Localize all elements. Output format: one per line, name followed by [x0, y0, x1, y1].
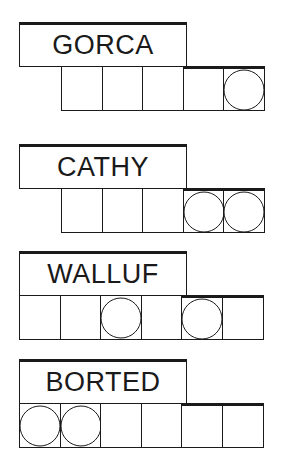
answer-cell[interactable] [60, 295, 102, 340]
answer-cell[interactable] [142, 66, 184, 111]
answer-cells-row [19, 403, 264, 448]
answer-cell[interactable] [142, 188, 184, 233]
circled-letter-icon [60, 405, 101, 446]
circled-letter-icon [183, 191, 224, 232]
answer-cell[interactable] [102, 66, 144, 111]
scrambled-word-label: GORCA [19, 22, 187, 67]
answer-cell[interactable] [61, 66, 103, 111]
answer-cell[interactable] [223, 188, 265, 233]
scrambled-word-label: CATHY [19, 144, 187, 189]
answer-cell[interactable] [223, 66, 265, 111]
circled-letter-icon [224, 69, 265, 110]
circled-letter-icon [182, 298, 223, 339]
answer-cell[interactable] [60, 403, 102, 448]
circled-letter-icon [224, 191, 265, 232]
answer-cell[interactable] [100, 295, 142, 340]
answer-cell[interactable] [19, 403, 61, 448]
answer-cells-row [61, 66, 265, 111]
answer-cell[interactable] [181, 295, 223, 340]
answer-cell[interactable] [222, 403, 264, 448]
answer-cell[interactable] [183, 188, 225, 233]
answer-cell[interactable] [183, 66, 225, 111]
answer-cell[interactable] [61, 188, 103, 233]
scrambled-word-label: WALLUF [19, 251, 187, 296]
scrambled-word-label: BORTED [19, 359, 187, 404]
answer-cell[interactable] [141, 403, 183, 448]
answer-cell[interactable] [222, 295, 264, 340]
answer-cell[interactable] [100, 403, 142, 448]
circled-letter-icon [101, 297, 142, 338]
answer-cell[interactable] [141, 295, 183, 340]
answer-cells-row [19, 295, 264, 340]
circled-letter-icon [20, 405, 61, 446]
answer-cell[interactable] [102, 188, 144, 233]
answer-cells-row [61, 188, 265, 233]
answer-cell[interactable] [181, 403, 223, 448]
answer-cell[interactable] [19, 295, 61, 340]
